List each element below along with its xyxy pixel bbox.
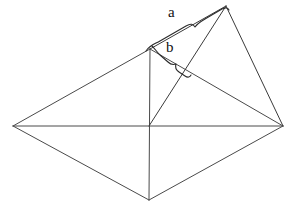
apex-edge-from-right-vertex (226, 6, 283, 126)
apex-edge-from-top-vertex (150, 6, 226, 49)
base-edge-bottom-left (13, 126, 149, 200)
base-edge-right-bottom (149, 126, 283, 200)
segment-label-b: b (166, 40, 174, 55)
geometry-diagram: a b (0, 0, 287, 206)
base-edge-top-right (150, 49, 283, 126)
base-edge-left-top (13, 49, 150, 126)
segment-label-a: a (168, 5, 175, 20)
geometry-figure (0, 0, 287, 206)
apex-edge-from-center (149, 6, 226, 126)
